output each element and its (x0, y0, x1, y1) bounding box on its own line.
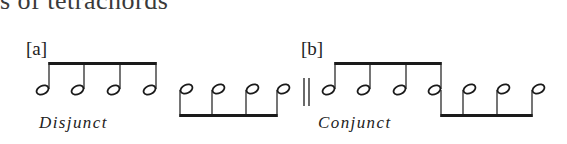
half-note-head-icon (496, 83, 511, 96)
half-note-head-icon (179, 83, 194, 96)
half-note-head-icon (211, 83, 226, 96)
beam (179, 114, 277, 117)
half-note-head-icon (392, 84, 407, 97)
half-note-head-icon (276, 83, 291, 96)
half-note-head-icon (531, 83, 546, 96)
half-note-head-icon (35, 84, 50, 97)
caption-conjunct: Conjunct (318, 113, 392, 133)
half-note-head-icon (245, 83, 260, 96)
half-note-head-icon (70, 84, 85, 97)
half-note-head-icon (321, 84, 336, 97)
half-note-head-icon (142, 84, 157, 97)
beam (48, 62, 156, 65)
half-note-head-icon (462, 83, 477, 96)
half-note-head-icon (427, 84, 442, 97)
beam (440, 114, 532, 117)
half-note-head-icon (356, 84, 371, 97)
beam (334, 62, 441, 65)
caption-disjunct: Disjunct (39, 113, 108, 133)
half-note-head-icon (106, 84, 121, 97)
